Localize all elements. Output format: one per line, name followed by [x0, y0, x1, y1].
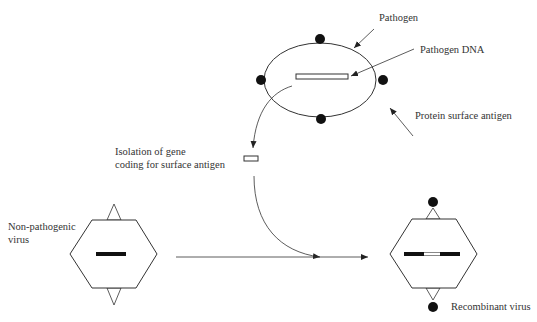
vaccine-diagram: Pathogen Pathogen DNA Protein surface an… [0, 0, 537, 322]
non-pathogenic-virus [70, 204, 157, 305]
antigen-pointer-arrow [390, 108, 413, 136]
surface-antigen-dot [315, 34, 325, 44]
label-recombinant-virus: Recombinant virus [451, 301, 531, 314]
label-pathogen-dna: Pathogen DNA [420, 44, 484, 57]
label-pathogen: Pathogen [379, 12, 418, 25]
pathogen-dna-strand [296, 74, 348, 79]
isolation-arrow [253, 86, 292, 148]
surface-antigen-dot [378, 75, 388, 85]
pathogen-cell [256, 34, 388, 124]
surface-antigen-dot [428, 197, 438, 207]
label-non-pathogenic-line2: virus [8, 234, 29, 247]
label-isolation-line2: coding for surface antigen [115, 159, 225, 172]
dna-pointer-arrow [351, 49, 414, 76]
viral-genome [96, 252, 126, 256]
insertion-arrow [254, 176, 320, 257]
surface-antigen-dot [256, 75, 266, 85]
isolated-gene [244, 156, 258, 161]
surface-antigen-dot [316, 114, 326, 124]
label-non-pathogenic-line1: Non-pathogenic [8, 221, 76, 234]
inserted-gene [424, 253, 440, 256]
surface-antigen-dot [428, 302, 438, 312]
label-protein-surface-antigen: Protein surface antigen [415, 110, 512, 123]
pathogen-pointer-arrow [354, 29, 374, 48]
recombinant-virus [390, 197, 477, 312]
label-isolation-line1: Isolation of gene [115, 146, 186, 159]
